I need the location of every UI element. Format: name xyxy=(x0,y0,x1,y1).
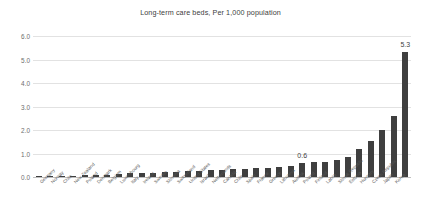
y-axis-tick-label: 0.0 xyxy=(8,174,30,181)
y-axis-tick-label: 3.0 xyxy=(8,103,30,110)
chart-container: Long-term care beds, Per 1,000 populatio… xyxy=(0,0,421,221)
y-axis-tick-label: 1.0 xyxy=(8,150,30,157)
bar-value-label: 5.3 xyxy=(400,41,410,48)
bar-value-label: 0.6 xyxy=(297,152,307,159)
bars-group: 0.65.3 xyxy=(33,36,411,177)
bar xyxy=(36,176,42,177)
bar xyxy=(391,116,397,177)
y-axis-tick-label: 4.0 xyxy=(8,80,30,87)
y-axis-tick-label: 6.0 xyxy=(8,33,30,40)
y-axis-tick-label: 5.0 xyxy=(8,56,30,63)
x-axis-labels: GermanyNorwayChileNew ZealandPolandDenma… xyxy=(33,179,411,221)
bar xyxy=(402,52,408,177)
y-axis-tick-label: 2.0 xyxy=(8,127,30,134)
chart-title: Long-term care beds, Per 1,000 populatio… xyxy=(0,8,421,17)
bar xyxy=(139,173,145,177)
